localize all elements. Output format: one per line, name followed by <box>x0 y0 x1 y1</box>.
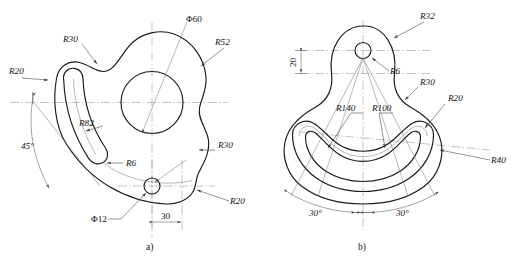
label-r6-a: R6 <box>125 158 137 168</box>
ray-right-inner-b <box>363 58 408 196</box>
label-r6-b: R6 <box>389 66 401 76</box>
label-r30-right-a: R30 <box>217 140 233 150</box>
slot-centerline-a <box>74 79 97 156</box>
label-r20-left-a: R20 <box>8 66 24 76</box>
label-r32-b: R32 <box>419 11 435 21</box>
leader-r20-bottom-right-a <box>197 190 229 201</box>
label-r40-b: R40 <box>490 155 506 165</box>
leader-r20-left-a <box>22 78 48 80</box>
leader-r40-b <box>440 150 490 160</box>
figure-a-group: R30 R20 Φ60 R52 R82 45° R6 R30 R20 Φ12 3… <box>8 14 245 253</box>
leader-r20-b <box>425 104 445 128</box>
label-r30-b: R30 <box>419 77 435 87</box>
drawing-page: R30 R20 Φ60 R52 R82 45° R6 R30 R20 Φ12 3… <box>0 0 514 265</box>
ray-left-outer-b <box>291 58 363 196</box>
angle-45-dimension-a <box>31 92 100 188</box>
caption-figure-b: b) <box>358 242 366 253</box>
angle-30-left-arc-b <box>288 192 362 213</box>
label-r20-b: R20 <box>447 93 463 103</box>
leader-r52-a <box>201 48 224 66</box>
leader-r6-b <box>372 58 389 71</box>
leader-r100-b <box>379 113 385 148</box>
label-r140-b: R140 <box>335 103 356 113</box>
label-angle-45-a: 45° <box>21 141 34 151</box>
caption-figure-a: a) <box>146 242 153 253</box>
figure-a-centerlines <box>10 22 228 238</box>
label-r82-a: R82 <box>78 118 94 128</box>
label-dia12-a: Φ12 <box>91 214 107 224</box>
outline-part-a <box>55 32 209 204</box>
label-dim30-a: 30 <box>161 211 171 221</box>
label-r52-a: R52 <box>214 37 230 47</box>
leader-r30-b <box>405 87 418 100</box>
leader-r30-top-left-a <box>82 44 97 64</box>
leader-hole-center-a <box>155 160 186 182</box>
technical-drawing-svg: R30 R20 Φ60 R52 R82 45° R6 R30 R20 Φ12 3… <box>0 0 514 265</box>
figure-b-group: R32 R6 20 R30 R20 R140 R100 R40 30° 30° … <box>284 11 506 253</box>
label-dim20-b: 20 <box>288 57 298 67</box>
pitch-arc-a <box>104 163 193 183</box>
leader-dia12-a <box>121 193 146 219</box>
label-r20-bottom-right-a: R20 <box>229 196 245 206</box>
label-dia60-a: Φ60 <box>186 14 202 24</box>
label-angle-left-30-b: 30° <box>308 208 322 218</box>
label-r100-b: R100 <box>371 103 392 113</box>
leader-r32-b <box>394 22 424 38</box>
ray-left-inner-b <box>318 58 363 196</box>
label-angle-right-30-b: 30° <box>395 208 409 218</box>
label-r30-top-left-a: R30 <box>62 34 78 44</box>
